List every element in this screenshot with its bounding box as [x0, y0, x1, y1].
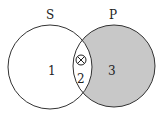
venn-diagram: S P 1 2 3 — [0, 0, 164, 121]
region-label-3: 3 — [108, 64, 116, 78]
set-label-p: P — [109, 8, 117, 22]
set-label-s: S — [46, 8, 54, 22]
region-label-1: 1 — [48, 64, 56, 78]
region-label-2: 2 — [77, 72, 85, 86]
